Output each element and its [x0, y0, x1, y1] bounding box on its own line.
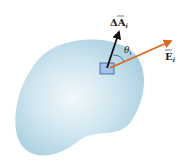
flux-diagram: ΔAi θi Ei	[0, 0, 188, 168]
closed-surface	[15, 39, 144, 155]
theta-label: θi	[124, 45, 131, 56]
delta-a-label: ΔAi	[110, 17, 129, 29]
e-label: Ei	[165, 51, 176, 63]
area-element	[100, 63, 114, 74]
